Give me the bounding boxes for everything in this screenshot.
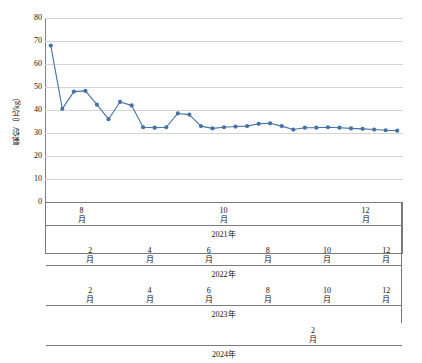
month-number: 2 [88, 286, 92, 295]
month-number: 4 [148, 246, 152, 255]
y-axis-tick-30: 30 [24, 129, 42, 137]
x-axis-month-label: 12月 [371, 283, 401, 305]
x-axis-month-label: 2月 [76, 243, 106, 265]
month-unit: 月 [382, 295, 390, 305]
x-axis-month-spacer [46, 283, 76, 305]
x-axis-month-spacer [164, 243, 194, 265]
month-unit: 月 [146, 255, 154, 265]
data-point [245, 124, 249, 128]
month-unit: 月 [264, 295, 272, 305]
data-point [291, 127, 295, 131]
x-axis-month-spacer [342, 283, 372, 305]
data-point [326, 125, 330, 129]
month-unit: 月 [264, 255, 272, 265]
data-point [349, 126, 353, 130]
plot-area [45, 18, 403, 202]
month-unit: 月 [323, 255, 331, 265]
data-point [280, 124, 284, 128]
x-axis-year-label: 2024年 [46, 345, 402, 363]
x-axis-month-spacer [117, 203, 188, 225]
x-axis-month-row: 8月10月12月 [46, 203, 401, 225]
month-number: 2 [311, 326, 315, 335]
x-axis-month-label: 12月 [371, 243, 401, 265]
month-number: 4 [148, 286, 152, 295]
data-point [314, 126, 318, 130]
series-ammonia-price [45, 18, 403, 202]
y-axis-tick-80: 80 [24, 14, 42, 22]
y-axis-title-text: 氨价/（元/kg） [11, 93, 22, 145]
series-line [51, 46, 397, 131]
y-axis-tick-20: 20 [24, 152, 42, 160]
x-axis-month-label: 2月 [224, 323, 402, 345]
month-number: 6 [207, 246, 211, 255]
x-axis-month-spacer [105, 243, 135, 265]
y-axis-tick-50: 50 [24, 83, 42, 91]
month-number: 6 [207, 286, 211, 295]
x-axis-month-spacer [283, 283, 313, 305]
month-unit: 月 [205, 255, 213, 265]
month-unit: 月 [362, 215, 370, 225]
x-axis-month-label: 4月 [135, 243, 165, 265]
month-number: 10 [323, 246, 331, 255]
data-point [303, 126, 307, 130]
x-axis-month-spacer [283, 243, 313, 265]
month-number: 10 [323, 286, 331, 295]
data-point [49, 44, 53, 48]
month-unit: 月 [146, 295, 154, 305]
x-axis-year-label: 2023年 [46, 305, 401, 323]
data-point [210, 126, 214, 130]
x-axis-month-label: 6月 [194, 283, 224, 305]
x-axis-month-row: 2月 [46, 323, 402, 345]
x-axis-month-label: 10月 [188, 203, 259, 225]
data-point [83, 89, 87, 93]
month-number: 12 [362, 206, 370, 215]
x-axis-month-spacer [46, 323, 224, 345]
x-axis-year-group: 2月4月6月8月10月12月2022年 [46, 243, 402, 283]
x-axis-month-spacer [259, 203, 330, 225]
x-axis-year-group: 2月2024年 [46, 323, 402, 363]
data-point [176, 111, 180, 115]
x-axis-month-row: 2月4月6月8月10月12月 [46, 283, 401, 305]
y-axis-tick-zero: 0 [24, 198, 42, 206]
month-unit: 月 [220, 215, 228, 225]
x-axis-month-label: 8月 [46, 203, 117, 225]
data-point [257, 122, 261, 126]
x-axis-month-label: 10月 [312, 243, 342, 265]
data-point [130, 103, 134, 107]
y-axis-tick-70: 70 [24, 37, 42, 45]
data-point [372, 127, 376, 131]
x-axis-month-label: 6月 [194, 243, 224, 265]
data-point [164, 125, 168, 129]
month-number: 10 [220, 206, 228, 215]
x-axis-month-row: 2月4月6月8月10月12月 [46, 243, 401, 265]
y-axis-tick-10: 10 [24, 175, 42, 183]
x-axis-month-label: 4月 [135, 283, 165, 305]
data-point [222, 125, 226, 129]
x-axis-month-spacer [223, 283, 253, 305]
data-point [199, 124, 203, 128]
x-axis-year-label: 2022年 [46, 265, 401, 283]
data-point [395, 129, 399, 133]
x-axis-month-spacer [223, 243, 253, 265]
x-axis-month-label: 2月 [76, 283, 106, 305]
x-axis-month-label: 12月 [330, 203, 401, 225]
month-number: 8 [266, 246, 270, 255]
month-unit: 月 [205, 295, 213, 305]
y-axis-tick-labels: 8070605040302010 [24, 0, 42, 265]
data-point [268, 121, 272, 125]
data-point [141, 125, 145, 129]
month-unit: 月 [323, 295, 331, 305]
x-axis-year-group: 8月10月12月2021年 [46, 203, 402, 243]
data-point [384, 128, 388, 132]
data-point [60, 107, 64, 111]
month-unit: 月 [382, 255, 390, 265]
data-point [153, 126, 157, 130]
x-axis-month-label: 8月 [253, 283, 283, 305]
month-number: 8 [80, 206, 84, 215]
month-number: 2 [88, 246, 92, 255]
data-point [72, 90, 76, 94]
data-point [118, 100, 122, 104]
month-unit: 月 [309, 335, 317, 345]
data-point [106, 117, 110, 121]
